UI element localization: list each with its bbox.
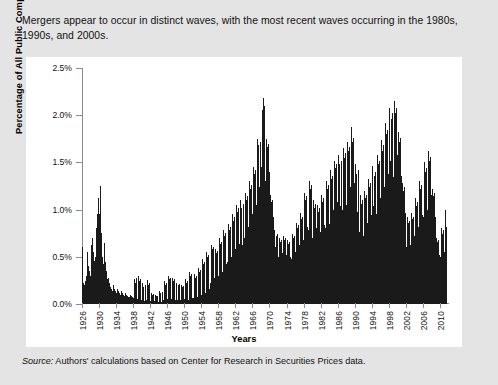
x-tick-label: 1958: [214, 311, 224, 330]
x-tick: [184, 303, 185, 308]
y-tick-label: 0.0%: [26, 300, 72, 308]
x-tick-label: 2006: [419, 311, 429, 330]
x-tick-label: 1934: [112, 311, 122, 330]
x-tick: [82, 303, 83, 308]
x-tick: [287, 303, 288, 308]
x-tick: [338, 303, 339, 308]
bar: [446, 227, 447, 304]
x-tick-label: 1930: [95, 311, 105, 330]
x-tick-label: 1942: [146, 311, 156, 330]
y-tick-label: 2.0%: [26, 111, 72, 119]
x-tick-label: 1978: [300, 311, 310, 330]
x-tick: [304, 303, 305, 308]
y-axis-title: Percentage of All Public Companies: [14, 0, 24, 153]
x-tick-label: 1994: [368, 311, 378, 330]
x-tick-label: 1962: [231, 311, 241, 330]
x-tick: [269, 303, 270, 308]
x-axis-title: Years: [26, 334, 462, 344]
x-tick-label: 1970: [265, 311, 275, 330]
x-tick: [423, 303, 424, 308]
x-tick: [321, 303, 322, 308]
x-tick: [372, 303, 373, 308]
x-tick-label: 1926: [78, 311, 88, 330]
plot-area: [82, 68, 448, 304]
figure-container: Mergers appear to occur in distinct wave…: [0, 0, 498, 385]
chart-panel: Percentage of All Public Companies 0.0%0…: [26, 57, 462, 347]
x-tick: [355, 303, 356, 308]
bar-series: [82, 68, 448, 304]
x-tick: [389, 303, 390, 308]
source-text: Authors' calculations based on Center fo…: [53, 356, 365, 366]
x-tick: [201, 303, 202, 308]
y-tick-label: 1.5%: [26, 158, 72, 166]
x-tick: [218, 303, 219, 308]
x-tick-label: 2002: [402, 311, 412, 330]
x-tick-label: 1950: [180, 311, 190, 330]
x-tick: [133, 303, 134, 308]
x-tick-label: 1954: [197, 311, 207, 330]
x-tick: [116, 303, 117, 308]
x-tick-label: 2010: [436, 311, 446, 330]
x-tick-label: 1998: [385, 311, 395, 330]
x-tick-label: 1946: [163, 311, 173, 330]
x-tick-label: 1966: [248, 311, 258, 330]
y-tick-label: 1.0%: [26, 206, 72, 214]
x-tick: [252, 303, 253, 308]
source-note: Source: Authors' calculations based on C…: [22, 356, 482, 366]
y-tick-label: 0.5%: [26, 253, 72, 261]
x-tick: [167, 303, 168, 308]
figure-headline: Mergers appear to occur in distinct wave…: [22, 14, 478, 43]
x-tick-label: 1974: [283, 311, 293, 330]
x-tick: [150, 303, 151, 308]
x-tick: [235, 303, 236, 308]
x-tick-label: 1982: [317, 311, 327, 330]
x-tick-label: 1986: [334, 311, 344, 330]
x-tick-label: 1990: [351, 311, 361, 330]
x-tick: [99, 303, 100, 308]
x-tick: [406, 303, 407, 308]
x-tick-label: 1938: [129, 311, 139, 330]
x-tick: [440, 303, 441, 308]
y-tick-label: 2.5%: [26, 64, 72, 72]
source-label: Source:: [22, 356, 53, 366]
bar: [82, 259, 83, 304]
